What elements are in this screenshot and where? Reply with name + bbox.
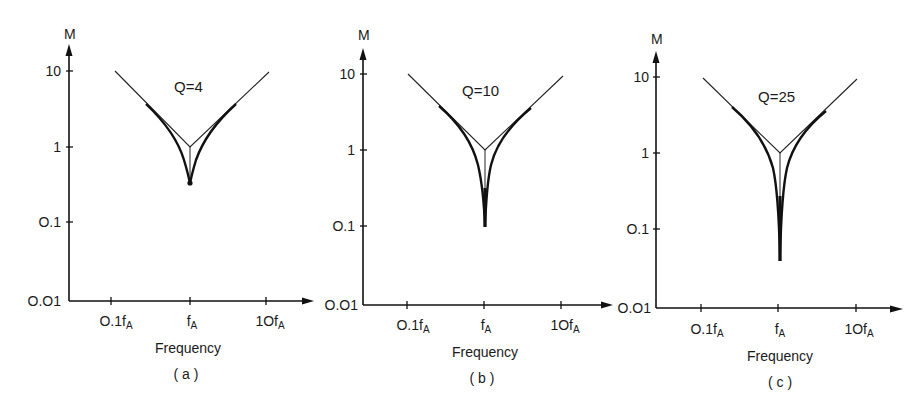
q-annotation-a: Q=4 [174, 80, 203, 94]
y-tick-10-c: 10 [609, 70, 649, 84]
x-axis-label-a: Frequency [155, 341, 221, 355]
q-annotation-c: Q=25 [758, 90, 795, 104]
chart-panel-a: M 10 1 O.1 O.O1 O.1fA fA 1OfA Q=4 Freque… [0, 0, 310, 413]
x-tick-high-b: 1OfA [550, 318, 579, 337]
x-tick-low-a: O.1fA [99, 314, 132, 333]
y-axis-label-b: M [358, 28, 370, 42]
y-tick-1-b: 1 [315, 143, 355, 157]
y-tick-0.1-b: O.1 [315, 219, 355, 233]
y-tick-1-c: 1 [609, 146, 649, 160]
x-tick-mid-a: fA [187, 314, 198, 333]
y-tick-1-a: 1 [21, 140, 61, 154]
x-axis-label-c: Frequency [747, 349, 813, 363]
y-tick-0.01-a: O.O1 [21, 294, 61, 308]
x-tick-low-b: O.1fA [396, 318, 429, 337]
y-tick-0.01-c: O.O1 [611, 301, 651, 315]
q-annotation-b: Q=10 [462, 84, 499, 98]
y-tick-0.1-a: O.1 [21, 215, 61, 229]
x-tick-mid-b: fA [481, 318, 492, 337]
y-axis-label-c: M [651, 32, 663, 46]
x-tick-low-c: O.1fA [690, 322, 723, 341]
panel-caption-a: ( a ) [174, 367, 199, 381]
y-tick-10-a: 10 [21, 64, 61, 78]
y-axis-label-a: M [64, 27, 76, 41]
y-tick-0.1-c: O.1 [609, 222, 649, 236]
chart-panel-c: M 10 1 O.1 O.O1 O.1fA fA 1OfA Q=25 Frequ… [610, 0, 924, 413]
x-tick-high-c: 1OfA [844, 322, 873, 341]
panel-caption-c: ( c ) [768, 375, 792, 389]
x-tick-mid-c: fA [775, 322, 786, 341]
y-tick-10-b: 10 [315, 67, 355, 81]
x-axis-label-b: Frequency [452, 345, 518, 359]
y-tick-0.01-b: O.O1 [318, 298, 358, 312]
x-tick-high-a: 1OfA [255, 314, 284, 333]
panel-caption-b: ( b ) [470, 371, 495, 385]
chart-panel-b: M 10 1 O.1 O.O1 O.1fA fA 1OfA Q=10 Frequ… [300, 0, 620, 413]
